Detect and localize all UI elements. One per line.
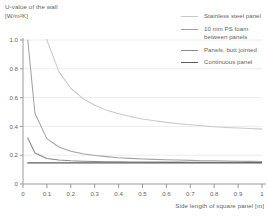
x-tick-label: 1 [260, 190, 264, 197]
x-tick-label: 0.8 [210, 190, 219, 197]
legend-item[interactable]: Panels, butt jointed [181, 46, 268, 54]
x-axis-title: Side length of square panel [m] [175, 202, 264, 209]
legend-swatch-icon [181, 50, 198, 51]
x-tick-label: 0.4 [114, 190, 123, 197]
y-tick-label: 0.2 [10, 151, 19, 158]
x-tick-label: 0.7 [186, 190, 195, 197]
x-tick-label: 0.1 [43, 190, 52, 197]
legend-item-label: Stainless steel panel [204, 12, 261, 20]
legend-item[interactable]: 10 mm PS foam between panels [181, 25, 268, 42]
y-tick-label: 0.6 [10, 94, 19, 101]
legend-item-label: Panels, butt jointed [204, 46, 257, 54]
legend-swatch-icon [181, 29, 198, 30]
x-tick-label: 0 [21, 190, 25, 197]
y-tick-label: 1.0 [10, 36, 19, 43]
x-tick-label: 0.6 [162, 190, 171, 197]
x-tick-label: 0.3 [90, 190, 99, 197]
x-tick-label: 0.5 [138, 190, 147, 197]
y-tick-label: 0.4 [10, 123, 19, 130]
chart-legend: Stainless steel panel10 mm PS foam betwe… [181, 12, 268, 71]
y-tick-label: 0.8 [10, 65, 19, 72]
legend-item[interactable]: Stainless steel panel [181, 12, 268, 20]
x-tick-label: 0.9 [234, 190, 243, 197]
legend-swatch-icon [181, 16, 198, 17]
y-tick-label: 0 [15, 180, 19, 187]
chart-container: U-value of the wall [W/m²K] 00.20.40.60.… [0, 0, 268, 217]
legend-item[interactable]: Continuous panel [181, 58, 268, 66]
legend-item-label: Continuous panel [204, 58, 252, 66]
legend-item-label: 10 mm PS foam between panels [204, 25, 248, 42]
x-tick-label: 0.2 [67, 190, 76, 197]
legend-swatch-icon [181, 62, 198, 63]
